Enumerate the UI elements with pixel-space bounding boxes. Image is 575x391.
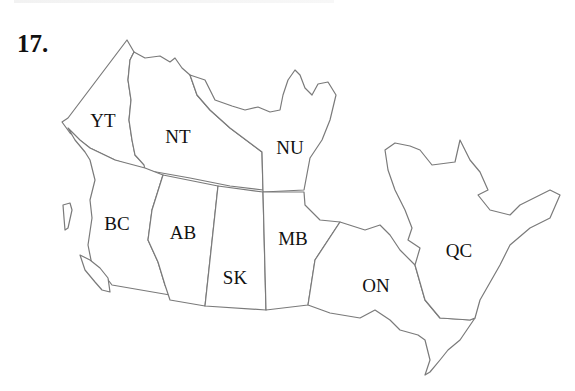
island-haida-gwaii [63,203,72,230]
label-sk: SK [223,267,248,288]
canada-map: YT NT NU BC AB SK MB ON QC [0,0,575,391]
label-ab: AB [170,222,196,243]
label-on: ON [362,275,390,296]
label-nt: NT [165,126,191,147]
label-mb: MB [278,228,308,249]
label-bc: BC [104,213,129,234]
label-nu: NU [276,137,304,158]
label-qc: QC [446,240,472,261]
label-yt: YT [90,110,116,131]
